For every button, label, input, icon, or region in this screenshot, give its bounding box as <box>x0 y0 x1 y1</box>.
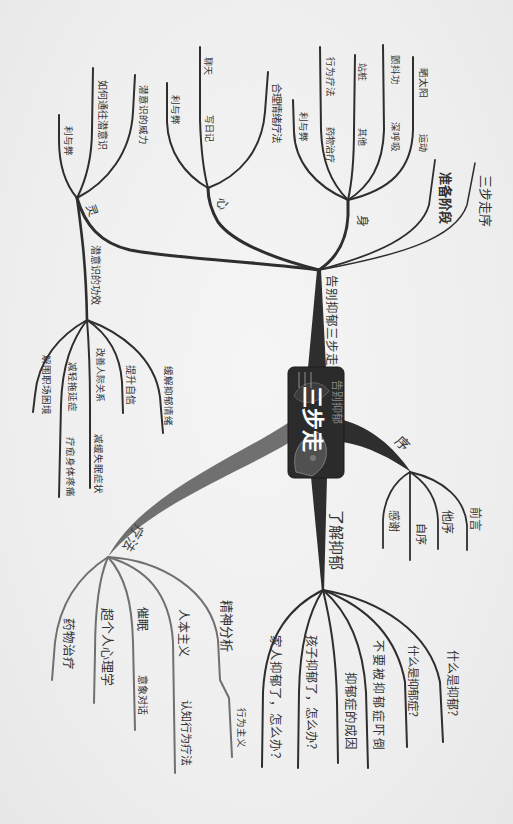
node-ling-pros-cons: 利与弊 <box>63 126 74 156</box>
node-dont-fear: 不要被抑郁症吓倒 <box>371 640 386 752</box>
node-goodbye-depression: 告别抑郁三步走 <box>324 275 339 366</box>
node-causes: 抑郁症的成因 <box>343 672 358 750</box>
node-understand-depression: 了解抑郁 <box>327 510 345 570</box>
node-thanks: 感谢 <box>387 510 401 532</box>
trunk-understand <box>311 477 327 592</box>
node-imagery-dialogue: 意象对话 <box>137 675 149 715</box>
node-xin: 心 <box>215 198 229 210</box>
node-xin-diary: 写日记 <box>204 115 214 142</box>
node-transpersonal: 超个人心理学 <box>100 608 115 686</box>
node-xin-ret: 合理情绪疗法 <box>271 83 283 143</box>
node-behaviorism: 行为主义 <box>236 708 247 748</box>
branch-therapies: 疗法 药物治疗 超个人心理学 催眠 意象对话 人本主义 认知行为疗法 精神分析 … <box>52 423 290 773</box>
leaf-dot-icon <box>310 455 316 461</box>
node-psychoanalysis: 精神分析 <box>219 600 234 652</box>
center-subtitle: 告别抑郁 <box>330 380 344 424</box>
node-what-disorder: 什么是抑郁症？ <box>406 645 420 722</box>
node-family: 家人抑郁了，怎么办？ <box>268 635 283 765</box>
node-ling-subconscious-path: 如何通往潜意识 <box>97 80 109 150</box>
node-foreword: 前言 <box>468 507 483 531</box>
node-shen-standing: 站桩 <box>357 63 368 81</box>
line-psychoanalysis <box>108 557 232 757</box>
node-medication: 药物治疗 <box>61 618 76 670</box>
node-ling-subconscious-effects: 潜意识的功效 <box>90 245 102 305</box>
node-shen: 身 <box>355 215 370 227</box>
line-shen-other <box>348 55 355 200</box>
line-xin-ret <box>208 72 268 188</box>
node-effect-body-pain: 疗愈身体疼痛 <box>65 437 76 497</box>
trunk-main <box>308 270 326 368</box>
node-child: 孩子抑郁了，怎么办？ <box>304 635 319 755</box>
line-effect-relationships <box>87 320 90 488</box>
node-shen-sunbathing: 晒太阳 <box>418 68 429 98</box>
node-effect-procrastination: 减轻拖延症 <box>67 362 78 412</box>
line-humanism <box>108 557 175 773</box>
node-shen-medication: 药物治疗 <box>325 127 336 163</box>
node-shen-breathing: 深呼吸 <box>390 122 401 152</box>
node-shen-behavior-therapy: 行为疗法 <box>325 57 336 97</box>
node-xin-chat: 聊天 <box>203 57 214 75</box>
node-shen-shaking: 颤抖功 <box>390 55 401 85</box>
line-shen <box>319 200 348 270</box>
node-effect-relationships: 改善人际关系 <box>95 348 106 402</box>
node-preface: 序 <box>391 432 412 453</box>
line-causes <box>323 590 338 763</box>
node-preparation: 准备阶段 <box>438 172 453 224</box>
node-cbt: 认知行为疗法 <box>179 700 193 766</box>
node-own-preface: 自序 <box>414 523 428 545</box>
node-shen-exercise: 运动 <box>418 134 428 152</box>
center-title: 三步走 <box>300 386 325 452</box>
center-topic: 三步走 告别抑郁 <box>288 367 344 478</box>
branch-understand-depression: 了解抑郁 家人抑郁了，怎么办？ 孩子抑郁了，怎么办？ 抑郁症的成因 不要被抑郁症… <box>262 477 460 768</box>
node-ling: 灵 <box>83 202 100 218</box>
line-ling-subconscious-path <box>77 68 93 198</box>
node-xin-pros-cons: 利与弊 <box>170 95 181 125</box>
mind-map-canvas: 告别抑郁三步走 灵 心 身 准备阶段 三步走序 利与弊 如何通往潜意识 潜意识的… <box>0 0 513 824</box>
node-preface-steps: 三步走序 <box>478 175 493 227</box>
node-what-depression: 什么是抑郁？ <box>445 650 460 722</box>
node-ling-subconscious-power: 潜意识的威力 <box>138 85 149 145</box>
node-other-preface: 他序 <box>440 510 455 534</box>
node-shen-other: 其他 <box>357 128 368 146</box>
branch-preface: 序 感谢 自序 他序 前言 <box>343 420 483 560</box>
node-effect-mood: 缓解抑郁情绪 <box>163 366 174 426</box>
node-effect-insomnia: 减缓失眠症状 <box>93 434 104 494</box>
node-effect-workplace: 解围职场困境 <box>41 355 52 415</box>
node-effect-confidence: 提升自信 <box>125 365 137 405</box>
node-humanism: 人本主义 <box>176 609 190 657</box>
branch-goodbye-depression: 告别抑郁三步走 灵 心 身 准备阶段 三步走序 利与弊 如何通往潜意识 潜意识的… <box>33 45 493 497</box>
mind-map: 告别抑郁三步走 灵 心 身 准备阶段 三步走序 利与弊 如何通往潜意识 潜意识的… <box>0 0 513 824</box>
node-hypnosis: 催眠 <box>135 607 149 631</box>
node-shen-pros-cons: 利与弊 <box>298 112 309 142</box>
